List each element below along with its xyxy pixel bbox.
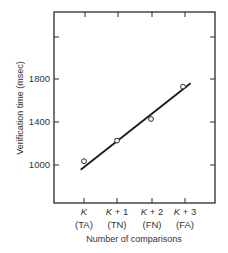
x-tick-label: K + 2: [141, 206, 163, 217]
data-point-marker: [115, 138, 120, 143]
y-tick-label: 1800: [29, 73, 50, 84]
x-tick-sublabel: (FA): [176, 219, 194, 230]
x-tick-label: K + 3: [174, 206, 196, 217]
x-tick-label: K + 1: [106, 206, 128, 217]
data-point-marker: [149, 117, 154, 122]
x-category-labels: K K + 1 K + 2 K + 3 (TA) (TN) (FN) (FA): [75, 206, 196, 230]
x-tick-label: K: [81, 206, 88, 217]
y-tick-label: 1400: [29, 116, 50, 127]
x-ticks-bottom: [84, 198, 185, 203]
x-tick-sublabel: (TA): [75, 219, 93, 230]
x-ticks-top: [85, 12, 185, 17]
fit-line: [81, 83, 191, 170]
data-point-marker: [181, 84, 186, 89]
chart: 1800 1400 1000 Verification time (msec) …: [0, 0, 228, 253]
data-point-marker: [82, 159, 87, 164]
y-ticks-left: [54, 37, 59, 165]
y-ticks-right: [210, 37, 215, 165]
y-tick-label: 1000: [29, 159, 50, 170]
data-points: [82, 84, 186, 163]
x-tick-sublabel: (FN): [143, 219, 162, 230]
x-tick-sublabel: (TN): [108, 219, 127, 230]
y-axis-title: Verification time (msec): [15, 61, 25, 155]
x-axis-title: Number of comparisons: [86, 234, 182, 244]
plot-frame: [54, 12, 215, 203]
